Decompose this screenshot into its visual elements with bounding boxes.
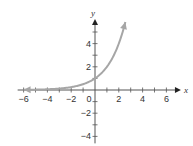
x-tick-label: 2 xyxy=(116,94,121,104)
curve-layer xyxy=(24,22,127,93)
x-tick-label: 0 xyxy=(86,94,91,104)
x-axis-arrow xyxy=(175,87,181,93)
curve-arrow-left xyxy=(24,86,31,93)
x-axis-label: x xyxy=(183,85,188,95)
x-tick-label: 4 xyxy=(140,94,145,104)
x-tick-label: −4 xyxy=(42,94,52,104)
y-axis-arrow xyxy=(92,19,98,25)
axes xyxy=(18,19,181,143)
y-tick-label: −4 xyxy=(81,131,91,141)
x-tick-label: −2 xyxy=(66,94,76,104)
labels: −6−4−2024642−2−4xy xyxy=(18,8,187,142)
x-tick-label: 6 xyxy=(164,94,169,104)
series-curve xyxy=(24,22,126,90)
y-axis-label: y xyxy=(90,8,95,18)
y-tick-label: −2 xyxy=(81,108,91,118)
y-tick-label: 2 xyxy=(86,62,91,72)
x-tick-label: −6 xyxy=(18,94,28,104)
exponential-chart: −6−4−2024642−2−4xy xyxy=(0,0,193,146)
y-tick-label: 4 xyxy=(86,39,91,49)
